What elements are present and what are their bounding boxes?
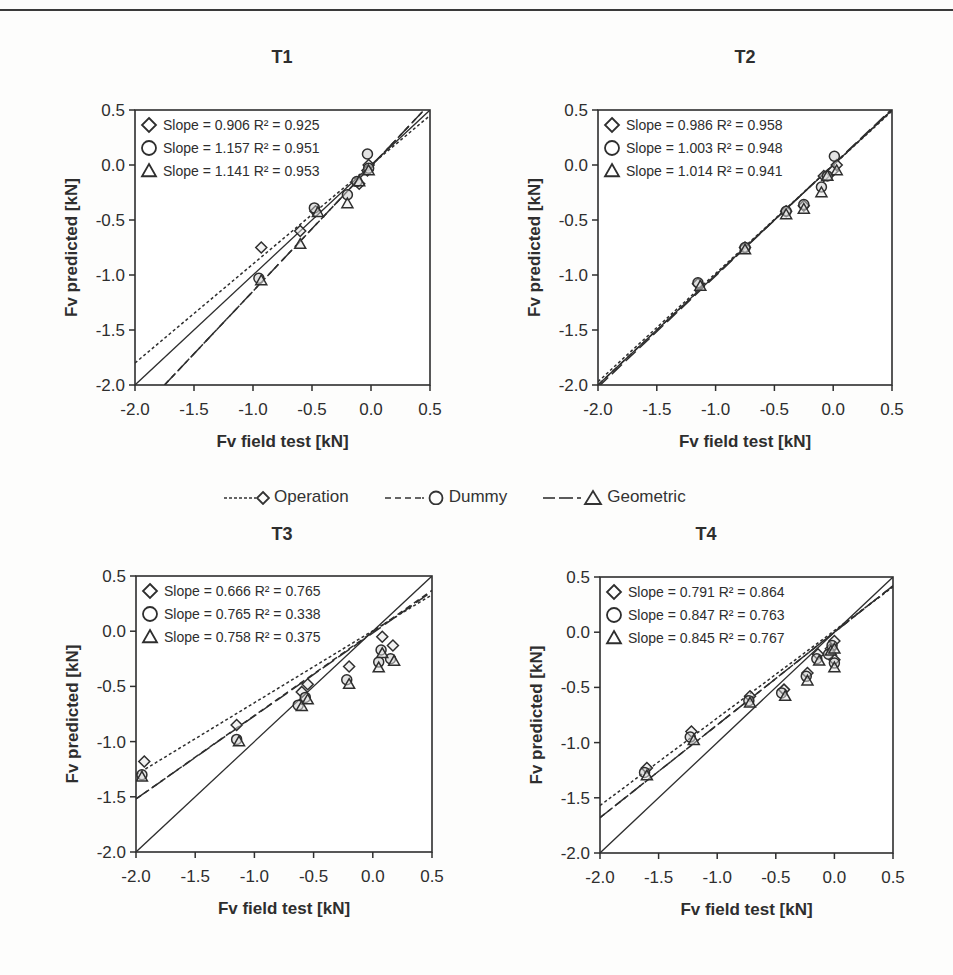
y-axis-label: Fv predicted [kN]: [527, 646, 546, 785]
x-axis-label: Fv field test [kN]: [680, 900, 812, 919]
legend-item-dummy: Dummy: [383, 487, 508, 507]
legend-label-operation: Operation: [274, 487, 349, 507]
circle-icon: [429, 492, 442, 505]
y-tick-label: 0.0: [566, 623, 590, 642]
legend-label-dummy: Dummy: [449, 487, 508, 507]
x-tick-label: -1.0: [703, 868, 732, 887]
y-tick-label: -1.0: [561, 734, 590, 753]
short-dash-line-icon: [222, 489, 270, 505]
y-tick-label: 0.5: [566, 568, 590, 587]
chart-title: T4: [695, 524, 716, 544]
x-tick-label: -2.0: [585, 868, 614, 887]
medium-dash-line-icon: [383, 489, 445, 505]
legend-item-geometric: Geometric: [541, 487, 685, 507]
shared-legend: Operation Dummy Geometric: [222, 484, 782, 510]
y-tick-label: -1.5: [561, 789, 590, 808]
x-tick-label: -1.5: [644, 868, 673, 887]
diamond-icon: [257, 492, 269, 504]
slope-annotation: Slope = 0.847 R² = 0.763: [628, 607, 785, 623]
slope-annotation: Slope = 0.845 R² = 0.767: [628, 630, 785, 646]
slope-annotation: Slope = 0.791 R² = 0.864: [628, 584, 785, 600]
legend-label-geometric: Geometric: [607, 487, 685, 507]
long-dash-line-icon: [541, 489, 603, 505]
y-tick-label: -2.0: [561, 844, 590, 863]
triangle-icon: [585, 491, 601, 504]
x-tick-label: -0.5: [761, 868, 790, 887]
legend-item-operation: Operation: [222, 487, 349, 507]
x-tick-label: 0.0: [823, 868, 847, 887]
y-tick-label: -0.5: [561, 678, 590, 697]
x-tick-label: 0.5: [881, 868, 905, 887]
